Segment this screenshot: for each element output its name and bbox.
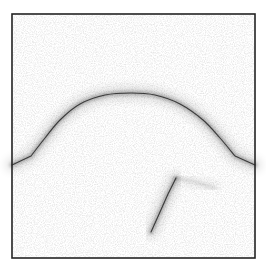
plot-area — [0, 0, 266, 275]
